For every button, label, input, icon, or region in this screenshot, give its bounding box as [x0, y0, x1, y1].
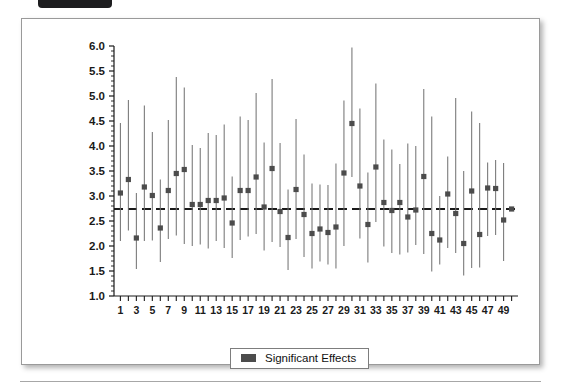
svg-text:1: 1 [117, 304, 123, 316]
svg-text:3: 3 [133, 304, 139, 316]
svg-text:49: 49 [498, 304, 510, 316]
svg-text:41: 41 [434, 304, 446, 316]
svg-text:27: 27 [322, 304, 334, 316]
y-axis: 1.01.52.02.53.03.54.04.55.05.56.0 [89, 40, 114, 302]
svg-text:17: 17 [242, 304, 254, 316]
svg-text:3.5: 3.5 [89, 165, 106, 177]
figure-panel: 1.01.52.02.53.03.54.04.55.05.56.0 135791… [21, 18, 540, 365]
svg-text:3.0: 3.0 [89, 190, 105, 202]
svg-text:5.0: 5.0 [89, 90, 105, 102]
horizontal-divider [20, 381, 541, 382]
svg-text:2.0: 2.0 [89, 240, 105, 252]
svg-text:6.0: 6.0 [89, 40, 105, 52]
svg-text:1.5: 1.5 [89, 265, 106, 277]
svg-text:13: 13 [210, 304, 222, 316]
x-axis: 1357911131517192123252729313335373941434… [114, 296, 518, 316]
svg-text:39: 39 [418, 304, 430, 316]
svg-text:43: 43 [450, 304, 462, 316]
svg-text:1.0: 1.0 [89, 290, 105, 302]
svg-text:5: 5 [149, 304, 155, 316]
svg-text:23: 23 [290, 304, 302, 316]
svg-text:29: 29 [338, 304, 350, 316]
svg-text:7: 7 [165, 304, 171, 316]
screenshot-page: 1.01.52.02.53.03.54.04.55.05.56.0 135791… [0, 0, 562, 388]
svg-text:21: 21 [274, 304, 286, 316]
svg-text:47: 47 [482, 304, 494, 316]
svg-text:25: 25 [306, 304, 318, 316]
svg-text:19: 19 [258, 304, 270, 316]
svg-text:9: 9 [181, 304, 187, 316]
svg-text:4.0: 4.0 [89, 140, 105, 152]
svg-text:4.5: 4.5 [89, 115, 106, 127]
chart-svg: 1.01.52.02.53.03.54.04.55.05.56.0 135791… [22, 19, 541, 366]
top-banner-fragment [38, 0, 112, 8]
svg-text:15: 15 [226, 304, 238, 316]
svg-text:33: 33 [370, 304, 382, 316]
svg-text:45: 45 [466, 304, 478, 316]
svg-text:37: 37 [402, 304, 414, 316]
svg-text:35: 35 [386, 304, 398, 316]
svg-text:11: 11 [195, 304, 206, 316]
svg-text:5.5: 5.5 [89, 65, 106, 77]
error-bar-chart: 1.01.52.02.53.03.54.04.55.05.56.0 135791… [22, 19, 541, 366]
legend-label: Significant Effects [265, 352, 356, 364]
svg-text:31: 31 [354, 304, 366, 316]
chart-legend: Significant Effects [230, 348, 369, 369]
data-series-significant-effects [118, 48, 514, 276]
svg-text:2.5: 2.5 [89, 215, 106, 227]
legend-swatch-icon [241, 354, 256, 362]
